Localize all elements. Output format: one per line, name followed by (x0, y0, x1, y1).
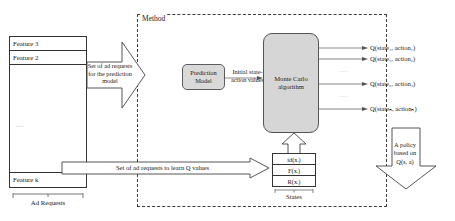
state-cell-f: F(xᵢ) (273, 165, 315, 176)
states-table: id(xᵢ) F(xᵢ) R(xᵢ) (272, 153, 316, 187)
feature-row-3: Feature 3 (10, 37, 86, 51)
state-cell-r: R(xᵢ) (273, 176, 315, 186)
q-output-connector-2-icon (319, 55, 369, 63)
state-cell-id: id(xᵢ) (273, 154, 315, 165)
states-label: States (272, 193, 316, 200)
q-ellipsis-2: ··· (340, 93, 348, 100)
q-value-label-4: Q(stateₙ, actionₙ) (370, 105, 417, 113)
method-label: Method (141, 14, 167, 23)
policy-line-1: A policy (394, 141, 416, 148)
states-to-montecarlo-arrow-icon (281, 133, 307, 155)
policy-line-3: Q(s, a) (396, 158, 413, 165)
q-output-connector-1-icon (319, 44, 369, 52)
monte-carlo-block: Monte Carlo algorithm (263, 33, 319, 133)
q-output-connector-4-icon (319, 105, 369, 113)
prediction-model-block: Prediction Model (182, 64, 225, 90)
q-ellipsis-1: ··· (340, 68, 348, 75)
vertical-ellipsis-icon: ... (16, 121, 24, 129)
q-output-connector-3-icon (319, 80, 369, 88)
learn-q-values-label: Set of ad requests to learn Q values (75, 164, 250, 172)
diagram-canvas: Method Feature 3 Feature 2 ... Feature k… (0, 0, 455, 221)
policy-label: A policy based on Q(s, a) (380, 141, 430, 166)
q-value-label-3: Q(state₂, action₃) (370, 80, 415, 88)
feature-row-2: Feature 2 (10, 51, 86, 65)
feature-rows-gap: ... (10, 65, 86, 173)
policy-line-2: based on (394, 149, 417, 156)
prediction-arrow-label: Set of ad requests for the prediction mo… (84, 62, 136, 85)
q-value-label-2: Q(state₁, action₂) (370, 55, 415, 63)
q-value-label-1: Q(state₁, action₁) (370, 44, 415, 52)
ad-requests-label: Ad Requests (9, 199, 87, 206)
